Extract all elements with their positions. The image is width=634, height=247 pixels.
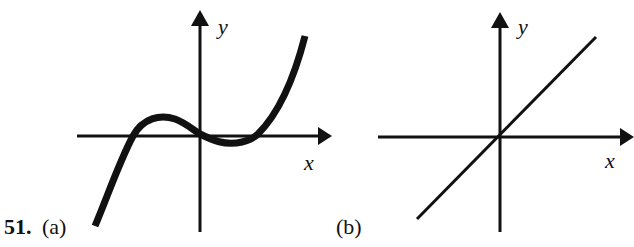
graph-b: y x — [378, 12, 634, 232]
y-axis-arrow-icon — [191, 10, 209, 26]
figure: 51. (a) y x (b) y x — [0, 0, 634, 247]
y-axis-label-b: y — [516, 14, 528, 39]
problem-number: 51. — [4, 214, 32, 239]
part-b-label: (b) — [336, 214, 362, 239]
linear-line — [417, 37, 596, 219]
x-axis-label-b: x — [604, 148, 615, 173]
x-axis-arrow-icon — [318, 127, 332, 145]
graph-a: y x — [77, 10, 332, 232]
x-axis-arrow-icon — [620, 128, 634, 146]
part-a-label: (a) — [42, 214, 66, 239]
y-axis-label-a: y — [216, 14, 228, 39]
y-axis-arrow-icon — [491, 12, 509, 28]
x-axis-label-a: x — [303, 150, 314, 175]
